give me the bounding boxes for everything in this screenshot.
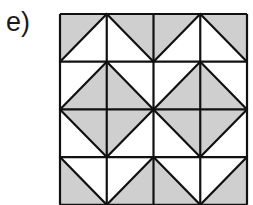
grid-lines — [60, 14, 247, 205]
triangle-grid-diagram — [0, 0, 253, 205]
